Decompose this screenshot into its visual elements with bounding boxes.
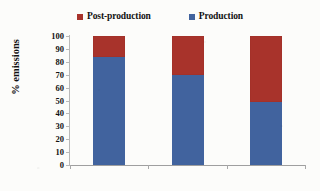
y-axis-tick-label: 100: [51, 32, 64, 41]
y-axis-tick-label: 90: [56, 45, 65, 54]
x-axis-tick: [70, 165, 71, 169]
y-axis-tick: [66, 75, 70, 76]
bar-segment-production-poultry[interactable]: [250, 102, 282, 165]
bar-segment-post-production-beef[interactable]: [93, 36, 125, 57]
y-axis-tick: [66, 139, 70, 140]
bar-poultry[interactable]: [250, 36, 282, 165]
x-axis-tick: [148, 165, 149, 169]
y-axis-tick-label: 50: [56, 96, 65, 105]
y-axis-tick-label: 30: [56, 122, 65, 131]
bar-segment-post-production-poultry[interactable]: [250, 36, 282, 102]
y-axis-tick: [66, 62, 70, 63]
bar-beef[interactable]: [93, 36, 125, 165]
plot-area: 0102030405060708090100BeefSwinePoultry: [70, 36, 305, 165]
legend-entry-post-production[interactable]: Post-production: [77, 12, 151, 22]
legend-label-production: Production: [199, 12, 243, 22]
x-axis-tick: [227, 165, 228, 169]
y-axis-tick-label: 10: [56, 148, 65, 157]
x-axis-tick: [305, 165, 306, 169]
legend-entry-production[interactable]: Production: [189, 12, 243, 22]
bar-swine[interactable]: [172, 36, 204, 165]
x-axis-line: [69, 165, 306, 166]
y-axis-tick-label: 40: [56, 109, 65, 118]
chart-legend: Post-production Production: [0, 9, 320, 24]
legend-label-post-production: Post-production: [87, 12, 151, 22]
y-axis-tick: [66, 36, 70, 37]
legend-swatch-production: [189, 14, 195, 20]
y-axis-tick: [66, 88, 70, 89]
y-axis-tick: [66, 113, 70, 114]
y-axis-tick-label: 80: [56, 58, 65, 67]
y-axis-tick-label: 60: [56, 83, 65, 92]
y-axis-tick: [66, 49, 70, 50]
y-axis-tick-label: 0: [60, 161, 64, 170]
legend-swatch-post-production: [77, 14, 83, 20]
y-axis-tick: [66, 126, 70, 127]
bar-segment-production-beef[interactable]: [93, 57, 125, 165]
y-axis-tick-label: 70: [56, 70, 65, 79]
y-axis-tick: [66, 101, 70, 102]
y-axis-tick: [66, 152, 70, 153]
bar-segment-post-production-swine[interactable]: [172, 36, 204, 75]
bar-segment-production-swine[interactable]: [172, 75, 204, 165]
emissions-stacked-bar-chart: Post-production Production % emissions 0…: [0, 0, 320, 191]
y-axis-tick-label: 20: [56, 135, 65, 144]
y-axis-title: % emissions: [9, 22, 23, 112]
